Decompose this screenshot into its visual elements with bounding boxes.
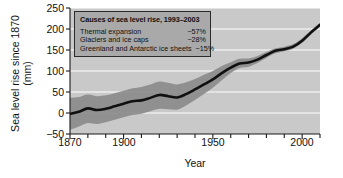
x-tick-1900: 1900 xyxy=(112,136,135,148)
y-axis-ticks xyxy=(66,8,70,134)
legend-box: Causes of sea level rise, 1993–2003 Ther… xyxy=(74,11,211,57)
x-axis-title: Year xyxy=(70,157,320,169)
x-tick-1870: 1870 xyxy=(58,136,81,148)
x-tick-2000: 2000 xyxy=(290,136,313,148)
sea-level-rise-chart: Sea level rise since 1870 (mm) 250 200 1… xyxy=(0,0,343,178)
x-axis-tick-labels: 1870 1900 1950 2000 xyxy=(0,136,343,152)
x-tick-1950: 1950 xyxy=(201,136,224,148)
legend-value-ice-sheets: ~15% xyxy=(191,45,214,53)
legend-title: Causes of sea level rise, 1993–2003 xyxy=(80,15,206,24)
legend-row: Greenland and Antarctic ice sheets ~15% xyxy=(80,45,206,53)
legend-label-ice-sheets: Greenland and Antarctic ice sheets xyxy=(80,45,191,53)
